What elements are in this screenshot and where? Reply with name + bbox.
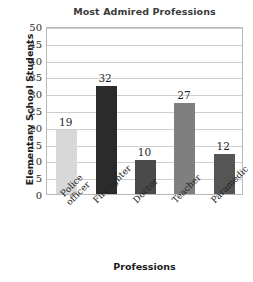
plot-area (46, 27, 243, 195)
gridline (47, 95, 242, 96)
y-axis-tick-label: 25 (16, 106, 42, 117)
y-axis-tick-label: 40 (16, 55, 42, 66)
chart-figure: Most Admired Professions Elementary Scho… (0, 0, 253, 282)
y-axis-tick-label: 20 (16, 122, 42, 133)
y-axis-tick-label: 5 (16, 173, 42, 184)
y-axis-tick-label: 15 (16, 139, 42, 150)
gridline (47, 112, 242, 113)
y-axis-tick-label: 50 (16, 22, 42, 33)
y-axis-tick-label: 0 (16, 190, 42, 201)
bar-value-label: 12 (203, 140, 243, 152)
y-axis-tick-label: 35 (16, 72, 42, 83)
gridline (47, 78, 242, 79)
gridline (47, 45, 242, 46)
bar-value-label: 32 (85, 72, 125, 84)
y-axis-tick-label: 45 (16, 38, 42, 49)
gridline (47, 62, 242, 63)
bar-value-label: 19 (46, 116, 86, 128)
y-axis-tick-label: 10 (16, 156, 42, 167)
chart-title: Most Admired Professions (46, 6, 243, 17)
gridline (47, 28, 242, 29)
y-axis-tick-label: 30 (16, 89, 42, 100)
x-axis-title: Professions (46, 261, 243, 272)
bar-value-label: 10 (125, 146, 165, 158)
bar-value-label: 27 (164, 89, 204, 101)
y-axis-tick-labels: 50454035302520151050 (14, 27, 42, 195)
